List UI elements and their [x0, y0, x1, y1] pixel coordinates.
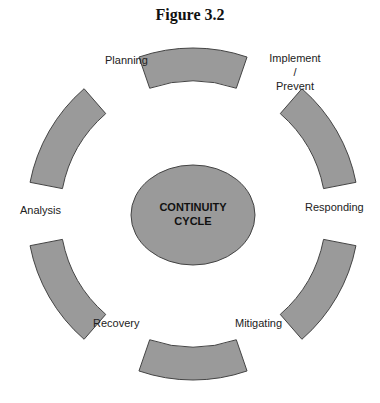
- cycle-segment-upper-right: [280, 89, 356, 189]
- cycle-segment-lower-right: [280, 239, 356, 339]
- stage-label-analysis: Analysis: [20, 203, 61, 217]
- label-line: /: [266, 65, 324, 79]
- cycle-segment-top: [139, 48, 247, 88]
- label-line: Prevent: [266, 79, 324, 93]
- stage-label-mitigating: Mitigating: [235, 316, 282, 330]
- stage-label-responding: Responding: [305, 200, 364, 214]
- center-label: CONTINUITY CYCLE: [133, 200, 253, 228]
- cycle-segment-bottom: [139, 340, 247, 380]
- center-label-line1: CONTINUITY: [133, 200, 253, 214]
- stage-label-planning: Planning: [105, 53, 148, 67]
- label-line: Implement: [266, 51, 324, 65]
- cycle-segment-upper-left: [30, 89, 106, 189]
- stage-label-implement-prevent: Implement / Prevent: [266, 51, 324, 93]
- center-label-line2: CYCLE: [133, 214, 253, 228]
- stage-label-recovery: Recovery: [93, 316, 139, 330]
